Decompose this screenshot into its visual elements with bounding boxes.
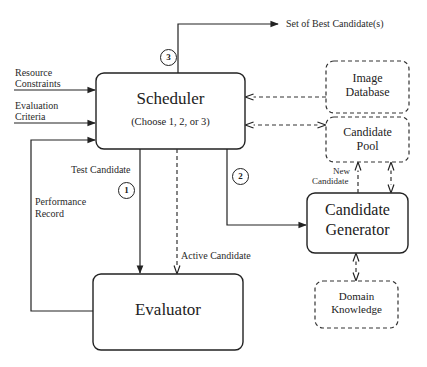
image-database-line1: Image: [326, 71, 409, 86]
performance-record-label-2: Record: [35, 208, 64, 220]
choice-1-badge: 1: [118, 182, 135, 199]
domain-knowledge-line2: Knowledge: [315, 303, 398, 315]
generate-candidate-arrow: [227, 149, 306, 225]
image-database-line2: Database: [326, 85, 409, 100]
active-candidate-label: Active Candidate: [181, 250, 251, 262]
performance-record-label-1: Performance: [35, 196, 86, 208]
best-candidate-output-arrow: [178, 24, 278, 73]
candidate-pool-line2: Pool: [326, 139, 409, 154]
new-candidate-label-2: Candidate: [312, 175, 349, 187]
choice-3-badge: 3: [160, 49, 177, 66]
candidate-pool-line1: Candidate: [326, 125, 409, 140]
domain-knowledge-line1: Domain: [315, 290, 398, 302]
scheduler-subtitle: (Choose 1, 2, or 3): [96, 116, 245, 127]
evaluation-criteria-label-2: Criteria: [15, 111, 46, 123]
candidate-generator-line1: Candidate: [307, 201, 408, 219]
candidate-generator-line2: Generator: [307, 221, 408, 239]
scheduler-box: [96, 73, 245, 149]
test-candidate-label: Test Candidate: [71, 164, 131, 176]
resource-constraints-label-2: Constraints: [15, 78, 61, 90]
best-candidate-output-label: Set of Best Candidate(s): [286, 18, 383, 30]
scheduler-title: Scheduler: [96, 89, 245, 109]
choice-2-badge: 2: [232, 168, 249, 185]
evaluator-title: Evaluator: [93, 300, 243, 320]
